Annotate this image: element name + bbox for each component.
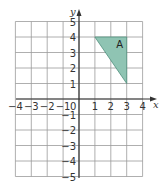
x-tick-label: −2	[40, 101, 55, 112]
y-axis-arrow-icon	[77, 9, 82, 16]
y-tick-label: −4	[61, 156, 76, 167]
x-tick-label: 2	[108, 101, 114, 112]
x-tick-label: 1	[92, 101, 98, 112]
x-tick-labels: −4−3−2−11234	[8, 101, 146, 112]
coordinate-grid: A x y 0 −4−3−2−11234 54321−1−2−3−4−5	[0, 0, 164, 190]
axes	[16, 9, 157, 178]
y-tick-label: −5	[61, 172, 76, 183]
x-tick-label: 4	[139, 101, 145, 112]
x-tick-label: −4	[8, 101, 23, 112]
x-tick-label: 3	[124, 101, 130, 112]
triangle-a-label: A	[116, 39, 123, 50]
y-tick-label: 4	[70, 32, 76, 43]
y-tick-label: 5	[70, 17, 76, 28]
y-tick-label: −1	[61, 110, 76, 121]
x-tick-label: −3	[24, 101, 39, 112]
y-tick-label: −3	[61, 141, 76, 152]
y-tick-label: 2	[70, 63, 76, 74]
y-axis-label: y	[69, 6, 76, 17]
y-tick-label: 1	[70, 79, 76, 90]
y-tick-label: 3	[70, 48, 76, 59]
x-axis-label: x	[153, 99, 159, 110]
y-tick-label: −2	[61, 125, 76, 136]
